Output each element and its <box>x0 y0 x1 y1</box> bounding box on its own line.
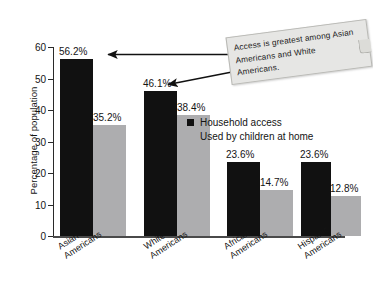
legend-swatch-household-access <box>187 119 194 126</box>
bar-chart: Percentage of population 0 10 20 30 40 5… <box>0 0 373 296</box>
y-tick-mark-20 <box>48 173 53 174</box>
y-tick-mark-60 <box>48 47 53 48</box>
y-tick-mark-40 <box>48 110 53 111</box>
y-tick-label-40: 40 <box>20 105 46 116</box>
y-tick-label-20: 20 <box>20 168 46 179</box>
legend-label-household-access: Household access <box>200 117 282 128</box>
y-axis-line <box>53 47 54 237</box>
y-tick-label-10: 10 <box>20 200 46 211</box>
bar-value-hispanic-household-access: 23.6% <box>300 149 328 160</box>
bar-value-white-household-access: 46.1% <box>143 78 171 89</box>
bar-value-white-used-by-children: 38.4% <box>177 102 205 113</box>
y-tick-mark-0 <box>48 236 53 237</box>
y-tick-label-0: 0 <box>20 231 46 242</box>
annotation-arrow-to-white <box>168 72 232 85</box>
y-tick-label-30: 30 <box>20 137 46 148</box>
bar-white-household-access <box>144 91 177 236</box>
annotation-callout-note: Access is greatest among Asian Americans… <box>225 19 372 85</box>
bar-value-african-used-by-children: 14.7% <box>260 177 288 188</box>
legend-label-used-by-children-at-home: Used by children at home <box>200 131 313 142</box>
y-tick-label-50: 50 <box>20 74 46 85</box>
y-tick-mark-10 <box>48 205 53 206</box>
bar-value-african-household-access: 23.6% <box>226 149 254 160</box>
legend-swatch-used-by-children-at-home <box>187 133 194 140</box>
bar-value-asian-household-access: 56.2% <box>59 46 87 57</box>
y-tick-label-60: 60 <box>20 42 46 53</box>
y-tick-mark-50 <box>48 79 53 80</box>
legend-item-used-by-children-at-home: Used by children at home <box>187 130 313 143</box>
chart-legend: Household access Used by children at hom… <box>187 116 313 144</box>
bar-african-used-by-children <box>260 190 293 236</box>
bar-value-asian-used-by-children: 35.2% <box>93 112 121 123</box>
bar-value-hispanic-used-by-children: 12.8% <box>330 183 358 194</box>
y-tick-mark-30 <box>48 142 53 143</box>
bar-asian-used-by-children <box>93 125 126 236</box>
legend-item-household-access: Household access <box>187 116 313 129</box>
bar-asian-household-access <box>60 59 93 236</box>
